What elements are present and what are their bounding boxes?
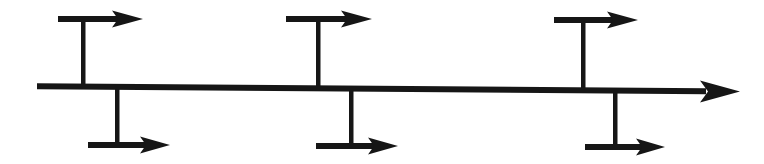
branch-top-1-stem <box>81 19 86 88</box>
branch-top-3-stem <box>581 20 586 90</box>
fishbone-diagram-svg <box>0 0 764 164</box>
branch-bottom-2-bar <box>316 143 374 149</box>
branch-bottom-1-stem <box>115 88 120 147</box>
branch-bottom-2-stem <box>349 89 354 148</box>
branch-top-1-bar <box>58 16 120 22</box>
branch-bottom-3-stem <box>613 91 618 149</box>
branch-top-2-stem <box>316 19 321 89</box>
fishbone-diagram-canvas <box>0 0 764 164</box>
branch-bottom-1-bar <box>88 142 148 148</box>
branch-bottom-3-bar <box>585 144 642 150</box>
